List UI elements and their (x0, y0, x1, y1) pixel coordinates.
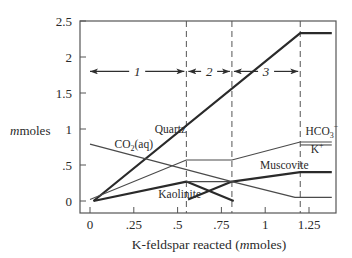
label-k-: K+ (311, 141, 324, 155)
x-tick-label: 0 (87, 217, 94, 232)
region-label: 2 (206, 64, 213, 79)
label-kaolinite: Kaolinite (158, 188, 201, 200)
plot-border (80, 21, 336, 213)
y-axis-label: mmoles (10, 123, 50, 138)
x-tick-label: .75 (213, 217, 229, 232)
data-series (90, 33, 332, 201)
y-tick-label: 0 (66, 194, 73, 209)
x-axis-label: K-feldspar reacted (mmoles) (132, 237, 286, 252)
y-tick-label: .5 (62, 158, 72, 173)
x-tick-label: 1 (262, 217, 269, 232)
chart: 0.511.522.50.25.5.7511.25 123 QuartzCO2(… (0, 0, 352, 258)
region-label: 1 (134, 64, 141, 79)
label-co2-aq-: CO2(aq) (115, 138, 154, 153)
series-labels: QuartzCO2(aq)KaoliniteMuscoviteHCO3−K+ (115, 122, 339, 200)
x-tick-label: .25 (126, 217, 142, 232)
y-tick-label: 1.5 (56, 86, 72, 101)
x-tick-label: .5 (173, 217, 183, 232)
series-quartz (94, 33, 332, 201)
series-muscovite (188, 172, 332, 199)
x-tick-label: 1.25 (298, 217, 321, 232)
region-arrows: 123 (90, 64, 298, 79)
y-tick-label: 2 (66, 50, 73, 65)
region-label: 3 (262, 64, 270, 79)
label-muscovite: Muscovite (260, 159, 309, 171)
label-quartz: Quartz (155, 123, 186, 135)
y-tick-label: 2.5 (56, 14, 72, 29)
plot-frame (80, 21, 336, 213)
label-hco3-: HCO3− (305, 122, 338, 140)
y-tick-label: 1 (66, 122, 73, 137)
